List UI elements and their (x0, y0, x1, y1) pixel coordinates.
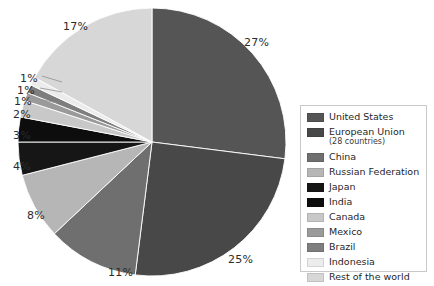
pie-slice-percent-label: 25% (228, 253, 253, 266)
legend-item-label: European Union(28 countries) (329, 126, 405, 147)
legend-item[interactable]: Rest of the world (307, 271, 422, 285)
legend-item-label: United States (329, 111, 393, 122)
pie-slice (152, 8, 286, 159)
legend-color-swatch-icon (307, 228, 324, 237)
legend-item[interactable]: Japan (307, 181, 422, 195)
chart-legend: United StatesEuropean Union(28 countries… (300, 105, 427, 272)
legend-item[interactable]: Brazil (307, 241, 422, 255)
pie-slice-percent-label: 17% (63, 20, 88, 33)
pie-slice-percent-label: 4% (13, 160, 31, 173)
pie-slice-percent-label: 3% (13, 129, 31, 142)
pie-chart-figure: 27%25%11%8%4%3%2%1%1%1%17% United States… (0, 0, 434, 286)
legend-item-label: Indonesia (329, 256, 375, 267)
legend-color-swatch-icon (307, 113, 324, 122)
legend-item[interactable]: China (307, 151, 422, 165)
legend-item[interactable]: European Union(28 countries) (307, 126, 422, 150)
legend-item-label: Brazil (329, 241, 356, 252)
legend-item[interactable]: India (307, 196, 422, 210)
legend-item[interactable]: Indonesia (307, 256, 422, 270)
legend-item-label: Rest of the world (329, 271, 410, 282)
legend-color-swatch-icon (307, 183, 324, 192)
legend-item[interactable]: United States (307, 111, 422, 125)
legend-item-label: Japan (329, 181, 356, 192)
legend-color-swatch-icon (307, 128, 324, 137)
legend-item-label: Mexico (329, 226, 362, 237)
legend-color-swatch-icon (307, 273, 324, 282)
legend-item[interactable]: Mexico (307, 226, 422, 240)
legend-item-label: China (329, 151, 356, 162)
legend-item-list: United StatesEuropean Union(28 countries… (307, 111, 422, 286)
legend-item-label: Canada (329, 211, 365, 222)
legend-color-swatch-icon (307, 213, 324, 222)
legend-item[interactable]: Canada (307, 211, 422, 225)
pie-slice-percent-label: 1% (17, 84, 35, 97)
legend-item-label: India (329, 196, 352, 207)
pie-slice (135, 142, 285, 276)
pie-slice-percent-label: 1% (20, 72, 38, 85)
pie-slice-percent-label: 11% (108, 266, 133, 279)
legend-color-swatch-icon (307, 168, 324, 177)
legend-color-swatch-icon (307, 198, 324, 207)
pie-slice-percent-label: 8% (27, 209, 45, 222)
legend-color-swatch-icon (307, 258, 324, 267)
legend-color-swatch-icon (307, 153, 324, 162)
legend-item[interactable]: Russian Federation (307, 166, 422, 180)
legend-color-swatch-icon (307, 243, 324, 252)
legend-item-label: Russian Federation (329, 166, 419, 177)
pie-slice-percent-label: 2% (13, 108, 31, 121)
legend-item-sublabel: (28 countries) (329, 137, 405, 147)
pie-slice-percent-label: 27% (244, 36, 269, 49)
